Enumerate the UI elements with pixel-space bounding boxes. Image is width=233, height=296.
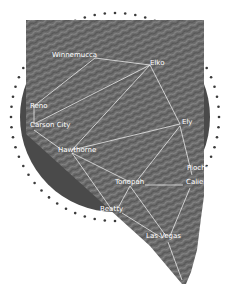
city-label-pioche: Pioche	[187, 164, 210, 172]
city-label-beatty: Beatty	[100, 205, 123, 213]
ring-dot	[48, 196, 51, 199]
ring-dot	[213, 86, 216, 89]
city-label-carson-city: Carson City	[30, 121, 70, 129]
city-label-winnemucca: Winnemucca	[52, 51, 97, 59]
ring-dot	[10, 126, 13, 129]
ring-dot	[217, 126, 220, 129]
ring-dot	[144, 16, 147, 19]
ring-dot	[114, 12, 117, 15]
city-label-elko: Elko	[150, 59, 164, 67]
ring-dot	[210, 156, 213, 159]
ring-dot	[27, 174, 30, 177]
nevada-route-map: WinnemuccaElkoRenoCarson CityElyHawthorn…	[0, 0, 233, 296]
ring-dot	[104, 219, 107, 222]
city-label-tonopah: Tonopah	[114, 178, 144, 186]
ring-dot	[14, 146, 17, 149]
ring-dot	[93, 218, 96, 221]
ring-dot	[40, 189, 43, 192]
city-label-ely: Ely	[182, 118, 193, 126]
ring-dot	[56, 202, 59, 205]
ring-dot	[213, 146, 216, 149]
ring-dot	[10, 106, 13, 109]
ring-dot	[65, 207, 68, 210]
ring-dot	[10, 116, 13, 119]
ring-dot	[22, 67, 25, 70]
ring-dot	[84, 16, 87, 19]
city-label-las-vegas: Las Vegas	[146, 232, 181, 240]
city-label-reno: Reno	[30, 102, 48, 110]
ring-dot	[14, 86, 17, 89]
ring-dot	[104, 12, 107, 15]
ring-dot	[218, 116, 221, 119]
ring-dot	[134, 14, 137, 17]
ring-dot	[22, 165, 25, 168]
ring-dot	[18, 76, 21, 79]
ring-dot	[93, 14, 96, 17]
ring-dot	[210, 76, 213, 79]
ring-dot	[114, 220, 117, 223]
ring-dot	[18, 156, 21, 159]
ring-dot	[217, 106, 220, 109]
ring-dot	[74, 212, 77, 215]
ring-dot	[84, 215, 87, 218]
nevada-state-shape	[26, 20, 204, 284]
ring-dot	[124, 12, 127, 15]
ring-dot	[216, 95, 219, 98]
ring-dot	[12, 95, 15, 98]
ring-dot	[33, 182, 36, 185]
city-label-hawthorne: Hawthorne	[58, 146, 96, 154]
ring-dot	[216, 136, 219, 139]
ring-dot	[205, 67, 208, 70]
city-label-caliente: Caliente	[186, 178, 215, 186]
ring-dot	[12, 136, 15, 139]
